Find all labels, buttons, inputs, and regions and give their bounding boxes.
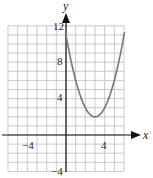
x-tick-neg4: −4	[22, 139, 34, 151]
y-tick-12: 12	[53, 20, 64, 32]
chart: x y −4 4 12 8 4 −4	[0, 0, 153, 178]
y-tick-8: 8	[57, 55, 63, 67]
x-axis-arrow-icon	[131, 131, 141, 139]
y-axis-label: y	[62, 0, 69, 13]
x-axis-label: x	[142, 128, 149, 142]
y-tick-4: 4	[57, 91, 63, 103]
x-tick-4: 4	[101, 139, 107, 151]
y-tick-neg4: −4	[51, 165, 63, 177]
